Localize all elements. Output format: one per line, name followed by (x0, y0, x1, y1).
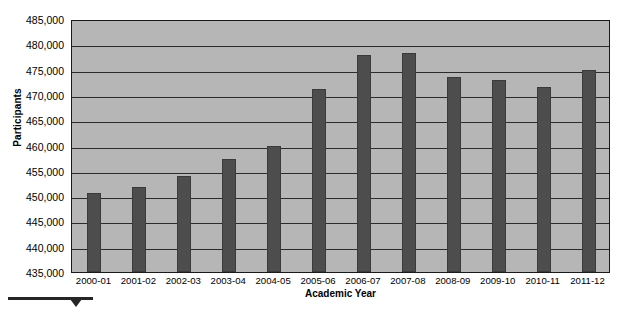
annotation-caret-icon (70, 299, 82, 307)
bar-slot (72, 21, 117, 272)
x-axis-tick-label: 2005-06 (300, 275, 335, 286)
bar[interactable] (447, 77, 461, 272)
bar[interactable] (537, 87, 551, 272)
bar[interactable] (492, 80, 506, 272)
bar-slot (566, 21, 611, 272)
bar-slot (521, 21, 566, 272)
x-axis-tick-label: 2007-08 (390, 275, 425, 286)
plot-area (71, 20, 610, 273)
y-axis-tick-label: 450,000 (26, 191, 64, 203)
bar-slot (431, 21, 476, 272)
bar[interactable] (177, 176, 191, 272)
bar[interactable] (222, 159, 236, 272)
y-axis-tick-label: 460,000 (26, 141, 64, 153)
bar-slot (252, 21, 297, 272)
bar-slot (162, 21, 207, 272)
bar[interactable] (132, 187, 146, 272)
y-axis-tick-label: 440,000 (26, 242, 64, 254)
bar-slot (342, 21, 387, 272)
x-axis-tick-label: 2010-11 (525, 275, 560, 286)
bars-layer (72, 21, 609, 272)
x-axis-tick-label: 2003-04 (211, 275, 246, 286)
bar-slot (476, 21, 521, 272)
x-axis-title: Academic Year (71, 288, 610, 299)
bar-slot (207, 21, 252, 272)
bar-slot (297, 21, 342, 272)
x-axis-tick-label: 2002-03 (166, 275, 201, 286)
bar[interactable] (267, 146, 281, 273)
y-axis-tick-label: 465,000 (26, 115, 64, 127)
x-axis-tick-label: 2001-02 (121, 275, 156, 286)
bar[interactable] (87, 193, 101, 272)
y-axis-tick-labels: 485,000480,000475,000470,000465,000460,0… (0, 0, 67, 313)
y-axis-tick-label: 455,000 (26, 166, 64, 178)
bar[interactable] (312, 89, 326, 272)
y-axis-tick-label: 480,000 (26, 39, 64, 51)
bar-slot (117, 21, 162, 272)
y-axis-tick-label: 475,000 (26, 65, 64, 77)
x-axis-tick-label: 2008-09 (435, 275, 470, 286)
x-axis-tick-label: 2006-07 (345, 275, 380, 286)
x-axis-tick-label: 2009-10 (480, 275, 515, 286)
bar-slot (386, 21, 431, 272)
bar[interactable] (357, 55, 371, 272)
x-axis-tick-label: 2000-01 (76, 275, 111, 286)
bar[interactable] (582, 70, 596, 272)
bar-chart-figure: Participants 485,000480,000475,000470,00… (0, 0, 617, 313)
x-axis-tick-label: 2004-05 (256, 275, 291, 286)
bar[interactable] (402, 53, 416, 272)
y-axis-tick-label: 435,000 (26, 267, 64, 279)
y-axis-tick-label: 485,000 (26, 14, 64, 26)
y-axis-tick-label: 445,000 (26, 216, 64, 228)
x-axis-tick-label: 2011-12 (570, 275, 605, 286)
y-axis-tick-label: 470,000 (26, 90, 64, 102)
